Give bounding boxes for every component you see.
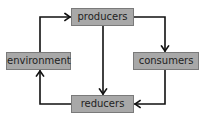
node-reducers: reducers	[71, 95, 134, 113]
arrow-reducers-to-environment	[37, 71, 72, 104]
node-label: producers	[77, 11, 127, 22]
node-consumers: consumers	[133, 52, 199, 70]
node-label: environment	[7, 55, 71, 66]
node-producers: producers	[71, 8, 134, 26]
arrow-consumers-to-reducers	[135, 70, 165, 108]
node-environment: environment	[6, 52, 71, 70]
node-label: reducers	[81, 98, 125, 109]
arrow-producers-to-reducers	[100, 26, 107, 94]
arrow-producers-to-consumers	[134, 17, 169, 51]
node-label: consumers	[139, 55, 194, 66]
ecosystem-cycle-diagram: producers consumers reducers environment	[0, 0, 203, 122]
arrow-environment-to-producers	[40, 14, 70, 53]
